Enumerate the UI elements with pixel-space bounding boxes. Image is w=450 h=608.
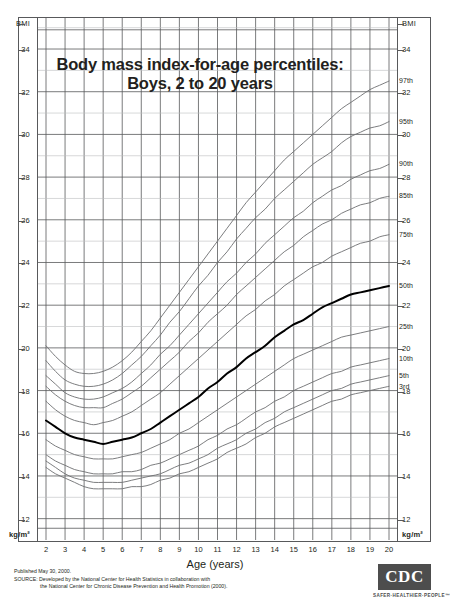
y-axis-unit-left: kg/m² xyxy=(4,530,30,539)
y-tick-right xyxy=(398,477,404,478)
x-tick-label-20: 20 xyxy=(381,545,397,554)
percentile-label-97th: 97th xyxy=(399,77,413,84)
y-tick-right xyxy=(398,263,404,264)
percentile-label-3rd: 3rd xyxy=(399,383,409,390)
percentile-label-5th: 5th xyxy=(399,372,409,379)
y-tick-left xyxy=(19,24,25,25)
y-tick-left xyxy=(19,349,25,350)
x-tick-label-5: 5 xyxy=(95,545,111,554)
y-tick-right xyxy=(398,24,404,25)
percentile-label-95th: 95th xyxy=(399,118,413,125)
y-tick-label-12-right: 12 xyxy=(402,515,428,524)
y-tick-right xyxy=(398,520,404,521)
page-title: Body mass index-for-age percentiles: Boy… xyxy=(40,55,360,93)
percentile-label-90th: 90th xyxy=(399,160,413,167)
y-tick-label-14-left: 14 xyxy=(4,472,30,481)
x-tick-label-7: 7 xyxy=(133,545,149,554)
x-tick-label-17: 17 xyxy=(324,545,340,554)
y-tick-label-20-right: 20 xyxy=(402,344,428,353)
y-tick-label-24-left: 24 xyxy=(4,258,30,267)
y-tick-left xyxy=(19,178,25,179)
percentile-label-85th: 85th xyxy=(399,192,413,199)
y-tick-label-28-right: 28 xyxy=(402,173,428,182)
x-tick-label-10: 10 xyxy=(190,545,206,554)
y-tick-label-30-left: 30 xyxy=(4,130,30,139)
y-tick-left xyxy=(19,434,25,435)
footer-notes: Published May 30, 2000. SOURCE: Develope… xyxy=(14,568,227,591)
y-tick-label-32-left: 32 xyxy=(4,88,30,97)
y-tick-right xyxy=(398,93,404,94)
y-tick-label-20-left: 20 xyxy=(4,344,30,353)
percentile-label-75th: 75th xyxy=(399,231,413,238)
y-tick-right xyxy=(398,306,404,307)
y-tick-left xyxy=(19,392,25,393)
y-tick-right xyxy=(398,50,404,51)
y-tick-label-32-right: 32 xyxy=(402,88,428,97)
y-tick-label-22-left: 22 xyxy=(4,301,30,310)
y-tick-label-34-right: 34 xyxy=(402,45,428,54)
percentile-curves-svg xyxy=(38,17,397,540)
y-tick-label-26-right: 26 xyxy=(402,216,428,225)
footer-source-1: SOURCE: Developed by the National Center… xyxy=(14,576,227,584)
y-tick-right xyxy=(398,178,404,179)
title-line-1: Body mass index-for-age percentiles: xyxy=(40,55,360,74)
y-tick-left xyxy=(19,221,25,222)
y-tick-label-30-right: 30 xyxy=(402,130,428,139)
y-tick-right xyxy=(398,135,404,136)
cdc-logo: CDC xyxy=(378,564,431,590)
y-tick-label-12-left: 12 xyxy=(4,515,30,524)
x-tick-label-15: 15 xyxy=(286,545,302,554)
x-tick-label-9: 9 xyxy=(171,545,187,554)
y-axis-unit-right: kg/m² xyxy=(402,530,428,539)
y-tick-label-28-left: 28 xyxy=(4,173,30,182)
x-tick-label-16: 16 xyxy=(305,545,321,554)
x-tick-label-12: 12 xyxy=(229,545,245,554)
y-tick-label-18-left: 18 xyxy=(4,387,30,396)
x-tick-label-19: 19 xyxy=(362,545,378,554)
x-tick-label-8: 8 xyxy=(152,545,168,554)
plot-area xyxy=(37,17,398,542)
x-tick-label-13: 13 xyxy=(248,545,264,554)
plot-inner xyxy=(38,17,397,542)
x-tick-label-2: 2 xyxy=(38,545,54,554)
percentile-label-50th: 50th xyxy=(399,282,413,289)
x-tick-label-11: 11 xyxy=(210,545,226,554)
y-tick-label-16-left: 16 xyxy=(4,429,30,438)
y-tick-right xyxy=(398,221,404,222)
y-tick-left xyxy=(19,263,25,264)
y-axis-header-right: BMI xyxy=(402,19,428,28)
y-tick-right xyxy=(398,392,404,393)
footer-source-2: the National Center for Chronic Disease … xyxy=(14,583,227,591)
x-tick-label-18: 18 xyxy=(343,545,359,554)
x-tick-label-6: 6 xyxy=(114,545,130,554)
y-tick-left xyxy=(19,520,25,521)
y-tick-label-14-right: 14 xyxy=(402,472,428,481)
cdc-tagline: SAFER·HEALTHIER·PEOPLE™ xyxy=(350,593,450,598)
y-tick-right xyxy=(398,434,404,435)
x-tick-label-14: 14 xyxy=(267,545,283,554)
x-tick-label-3: 3 xyxy=(57,545,73,554)
y-tick-label-24-right: 24 xyxy=(402,258,428,267)
title-line-2: Boys, 2 to 20 years xyxy=(40,74,360,93)
growth-chart-page: Body mass index-for-age percentiles: Boy… xyxy=(0,0,450,608)
y-tick-left xyxy=(19,135,25,136)
y-tick-left xyxy=(19,306,25,307)
y-tick-right xyxy=(398,349,404,350)
y-tick-label-34-left: 34 xyxy=(4,45,30,54)
y-tick-label-22-right: 22 xyxy=(402,301,428,310)
y-tick-left xyxy=(19,93,25,94)
x-tick-label-4: 4 xyxy=(76,545,92,554)
y-tick-left xyxy=(19,50,25,51)
y-tick-label-26-left: 26 xyxy=(4,216,30,225)
footer-published: Published May 30, 2000. xyxy=(14,568,227,576)
y-tick-left xyxy=(19,477,25,478)
percentile-label-25th: 25th xyxy=(399,323,413,330)
percentile-label-10th: 10th xyxy=(399,355,413,362)
y-tick-label-16-right: 16 xyxy=(402,429,428,438)
y-axis-header-left: BMI xyxy=(4,19,30,28)
